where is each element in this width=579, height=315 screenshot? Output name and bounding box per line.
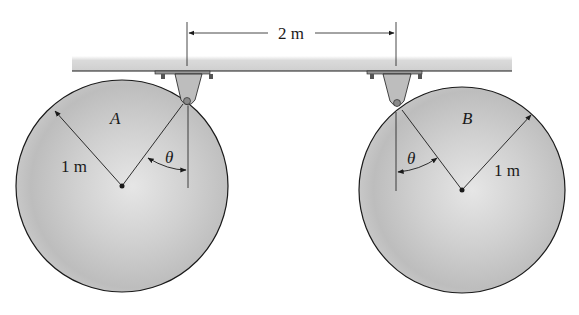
ceiling-beam — [72, 56, 512, 71]
disk-b-label: B — [462, 109, 473, 128]
disk-a-radius-label: 1 m — [61, 157, 87, 176]
disk-a-theta-label: θ — [165, 148, 173, 167]
disk-b-radius-label: 1 m — [494, 161, 520, 180]
pendulum-disks-diagram: 2 m A 1 m θ B 1 m θ — [0, 0, 579, 315]
dimension-label: 2 m — [278, 24, 304, 43]
disk-a-label: A — [109, 109, 121, 128]
disk-a — [16, 80, 228, 292]
disk-b-theta-label: θ — [407, 149, 415, 168]
